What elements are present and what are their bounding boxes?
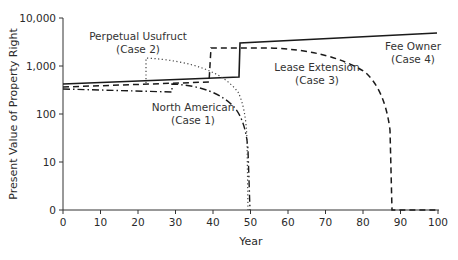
x-axis: 0 10 20 30 40 50 60 70 80 90 100 Year xyxy=(60,210,448,248)
property-right-value-chart: 10,000 1,000 100 10 0 Present Value of P… xyxy=(0,0,458,260)
x-axis-title: Year xyxy=(238,235,263,248)
svg-text:(Case 2): (Case 2) xyxy=(116,43,160,55)
annotation-lease-extension: Lease Extension (Case 3) xyxy=(274,61,359,86)
x-tick-label: 0 xyxy=(60,216,67,228)
y-tick-label: 0 xyxy=(49,204,56,216)
y-tick-label: 1,000 xyxy=(26,60,56,72)
svg-text:Lease Extension: Lease Extension xyxy=(274,61,359,73)
x-tick-label: 50 xyxy=(244,216,257,228)
x-tick-label: 70 xyxy=(319,216,332,228)
x-tick-label: 30 xyxy=(169,216,182,228)
x-tick-label: 10 xyxy=(94,216,107,228)
svg-text:Perpetual Usufruct: Perpetual Usufruct xyxy=(89,30,187,42)
svg-text:Fee Owner: Fee Owner xyxy=(385,40,442,52)
y-tick-label: 10,000 xyxy=(19,12,56,24)
y-axis-title: Present Value of Property Right xyxy=(7,28,20,200)
svg-text:(Case 3): (Case 3) xyxy=(295,74,339,86)
svg-text:(Case 4): (Case 4) xyxy=(391,53,435,65)
x-tick-label: 80 xyxy=(356,216,369,228)
series-lease-extension-line xyxy=(63,48,439,210)
y-tick-label: 10 xyxy=(43,156,56,168)
svg-text:(Case 1): (Case 1) xyxy=(171,114,215,126)
x-tick-label: 100 xyxy=(428,216,448,228)
y-axis: 10,000 1,000 100 10 0 Present Value of P… xyxy=(7,12,63,216)
x-tick-label: 90 xyxy=(394,216,407,228)
y-tick-label: 100 xyxy=(36,108,56,120)
x-tick-label: 40 xyxy=(206,216,219,228)
x-tick-label: 60 xyxy=(281,216,294,228)
annotation-perpetual-usufruct: Perpetual Usufruct (Case 2) xyxy=(89,30,187,55)
annotation-fee-owner: Fee Owner (Case 4) xyxy=(385,40,442,65)
annotation-north-american: North American (Case 1) xyxy=(152,101,235,126)
svg-text:North American: North American xyxy=(152,101,235,113)
x-tick-label: 20 xyxy=(131,216,144,228)
